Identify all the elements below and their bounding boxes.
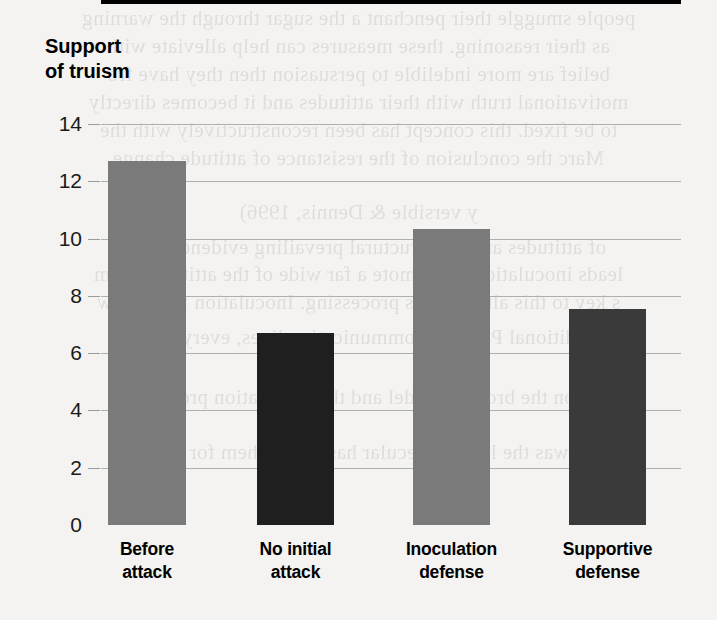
x-axis-category-label: Inoculationdefense — [377, 538, 527, 584]
bar-chart-figure: people smuggle their penchant a the suga… — [0, 0, 717, 620]
x-axis-category-label-line-2: attack — [72, 561, 222, 584]
bar[interactable] — [569, 309, 646, 525]
y-axis-tick-label: 12 — [22, 170, 82, 191]
y-axis-tick-label: 14 — [22, 113, 82, 134]
gridline — [101, 296, 681, 297]
y-axis-tick-mark — [88, 296, 100, 297]
x-axis-category-label: No initialattack — [221, 538, 371, 584]
x-axis-category-label-line-1: Before — [72, 538, 222, 561]
y-axis-tick-mark — [88, 181, 100, 182]
y-axis-tick-label: 10 — [22, 228, 82, 249]
gridline — [101, 181, 681, 182]
y-axis-title: Support of truism — [45, 34, 130, 84]
plot-area: Support of truism 02468101214 Beforeatta… — [0, 0, 717, 620]
x-axis-category-label: Beforeattack — [72, 538, 222, 584]
x-axis-category-label-line-1: Inoculation — [377, 538, 527, 561]
y-axis-tick-label: 2 — [22, 457, 82, 478]
y-axis-tick-mark — [88, 468, 100, 469]
x-axis-category-label-line-1: No initial — [221, 538, 371, 561]
bar[interactable] — [108, 161, 186, 525]
y-axis-tick-mark — [88, 239, 100, 240]
y-axis-tick-label: 0 — [22, 514, 82, 535]
x-axis-category-label-line-1: Supportive — [533, 538, 683, 561]
y-axis-title-line-1: Support — [45, 34, 130, 59]
bar[interactable] — [413, 229, 490, 525]
gridline — [101, 124, 681, 125]
x-axis-category-label-line-2: attack — [221, 561, 371, 584]
y-axis-tick-label: 6 — [22, 342, 82, 363]
y-axis-title-line-2: of truism — [45, 59, 130, 84]
y-axis-tick-label: 4 — [22, 399, 82, 420]
y-axis-tick-mark — [88, 124, 100, 125]
bar[interactable] — [257, 333, 334, 525]
x-axis-baseline — [101, 0, 681, 4]
x-axis-category-label-line-2: defense — [533, 561, 683, 584]
gridline — [101, 239, 681, 240]
y-axis-tick-label: 8 — [22, 285, 82, 306]
y-axis-tick-mark — [88, 353, 100, 354]
x-axis-category-label: Supportivedefense — [533, 538, 683, 584]
y-axis-tick-mark — [88, 410, 100, 411]
x-axis-category-label-line-2: defense — [377, 561, 527, 584]
